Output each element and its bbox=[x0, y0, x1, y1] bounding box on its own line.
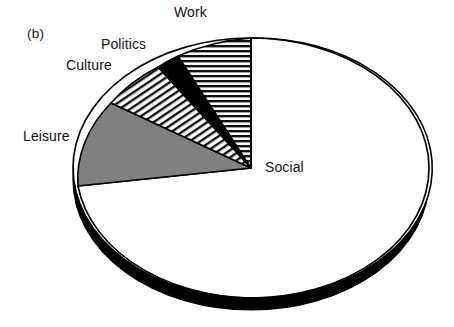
pie-label-politics: Politics bbox=[101, 36, 146, 52]
pie-label-work: Work bbox=[174, 4, 207, 20]
panel-label: (b) bbox=[27, 26, 44, 41]
pie-chart-figure: (b) Work Politics Culture Leisure Social bbox=[0, 0, 454, 327]
pie-label-social: Social bbox=[265, 159, 304, 175]
pie-label-culture: Culture bbox=[66, 57, 112, 73]
pie-top-face bbox=[73, 38, 432, 298]
pie-label-leisure: Leisure bbox=[23, 128, 70, 144]
pie-chart-svg bbox=[0, 0, 454, 327]
